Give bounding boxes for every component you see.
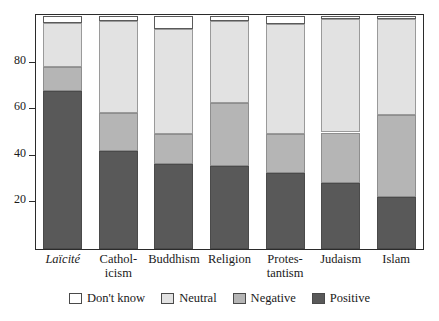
bar-segment-dont-know[interactable]	[377, 16, 416, 19]
bar-segment-positive[interactable]	[377, 197, 416, 249]
bars-layer	[35, 14, 424, 250]
bar-segment-neutral[interactable]	[99, 21, 138, 113]
legend-label: Neutral	[179, 292, 216, 305]
y-tick-label: 40	[14, 147, 26, 159]
x-axis-labels: LaïcitéCathol-icismBuddhismReligionProte…	[35, 252, 424, 288]
legend-item-negative[interactable]: Negative	[233, 292, 296, 305]
bar-group	[99, 14, 138, 250]
bar-segment-dont-know[interactable]	[43, 16, 82, 23]
bar-segment-positive[interactable]	[321, 183, 360, 249]
bar-segment-positive[interactable]	[99, 151, 138, 249]
bar-segment-positive[interactable]	[43, 91, 82, 249]
y-tick-label: 20	[14, 193, 26, 205]
bar-segment-negative[interactable]	[266, 134, 305, 174]
x-axis-label: Buddhism	[146, 252, 202, 266]
legend-swatch-icon	[161, 293, 174, 304]
x-axis-label-line1: Judaism	[320, 252, 361, 266]
bar-segment-positive[interactable]	[210, 166, 249, 249]
legend-item-dont-know[interactable]: Don't know	[69, 292, 145, 305]
bar-segment-negative[interactable]	[210, 103, 249, 166]
bar-stack	[99, 14, 138, 250]
bar-segment-positive[interactable]	[154, 164, 193, 249]
bar-segment-positive[interactable]	[266, 173, 305, 249]
bar-group	[43, 14, 82, 250]
bar-stack	[266, 14, 305, 250]
legend-item-neutral[interactable]: Neutral	[161, 292, 216, 305]
legend-label: Positive	[330, 292, 370, 305]
legend-label: Negative	[251, 292, 296, 305]
x-axis-label: Laïcité	[35, 252, 91, 266]
bar-segment-neutral[interactable]	[210, 21, 249, 104]
bar-segment-dont-know[interactable]	[210, 16, 249, 21]
bar-stack	[43, 14, 82, 250]
x-axis-label-line1: Cathol-	[100, 252, 138, 266]
bar-stack	[321, 14, 360, 250]
x-axis-label: Islam	[368, 252, 424, 266]
legend-swatch-icon	[233, 293, 246, 304]
x-axis-label: Religion	[202, 252, 258, 266]
bar-segment-neutral[interactable]	[266, 24, 305, 134]
bar-stack	[210, 14, 249, 250]
x-axis-label-line1: Protes-	[267, 252, 302, 266]
bar-segment-negative[interactable]	[321, 133, 360, 183]
bar-segment-neutral[interactable]	[377, 19, 416, 115]
legend-item-positive[interactable]: Positive	[312, 292, 370, 305]
bar-segment-neutral[interactable]	[154, 29, 193, 134]
x-axis-label-line1: Laïcité	[45, 252, 80, 266]
bar-segment-dont-know[interactable]	[266, 16, 305, 24]
bar-group	[266, 14, 305, 250]
x-axis-label-line1: Buddhism	[148, 252, 199, 266]
bar-segment-negative[interactable]	[154, 134, 193, 164]
y-tick-label: 60	[14, 100, 26, 112]
bar-segment-dont-know[interactable]	[154, 16, 193, 29]
x-axis-label-line2: tantism	[257, 266, 313, 280]
bar-stack	[154, 14, 193, 250]
bar-segment-dont-know[interactable]	[321, 16, 360, 19]
chart-legend: Don't knowNeutralNegativePositive	[0, 292, 439, 305]
bar-group	[377, 14, 416, 250]
legend-swatch-icon	[312, 293, 325, 304]
bar-group	[321, 14, 360, 250]
bar-segment-negative[interactable]	[377, 115, 416, 197]
bar-segment-neutral[interactable]	[43, 23, 82, 67]
bar-segment-negative[interactable]	[99, 113, 138, 151]
bar-segment-neutral[interactable]	[321, 19, 360, 132]
legend-label: Don't know	[87, 292, 145, 305]
x-axis-label: Judaism	[313, 252, 369, 266]
x-axis-label-line1: Religion	[208, 252, 251, 266]
y-tick-label: 80	[14, 54, 26, 66]
x-axis-label-line1: Islam	[382, 252, 410, 266]
x-axis-label-line2: icism	[91, 266, 147, 280]
bar-segment-dont-know[interactable]	[99, 16, 138, 21]
x-axis-label: Protes-tantism	[257, 252, 313, 280]
y-axis: 20406080	[0, 0, 35, 321]
bar-group	[210, 14, 249, 250]
bar-group	[154, 14, 193, 250]
bar-stack	[377, 14, 416, 250]
stacked-bar-chart-figure: 20406080 LaïcitéCathol-icismBuddhismReli…	[0, 0, 439, 321]
bar-segment-negative[interactable]	[43, 67, 82, 90]
legend-swatch-icon	[69, 293, 82, 304]
x-axis-label: Cathol-icism	[91, 252, 147, 280]
